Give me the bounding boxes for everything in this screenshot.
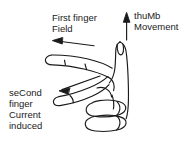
label-thumb-line2: Movement (134, 21, 178, 32)
index-finger-top-edge (52, 55, 112, 68)
label-first-finger: First finger Field (52, 12, 97, 34)
middle-finger-crease (70, 96, 73, 103)
field-arrow-head (52, 38, 62, 44)
movement-arrow-head (123, 12, 129, 22)
label-second-finger-line3: Current (9, 109, 42, 120)
label-second-finger-line2: finger (9, 98, 42, 109)
index-finger-knuckle-crease-2 (85, 64, 87, 70)
palm-web-upper (109, 77, 115, 90)
label-second-finger: seCond finger Current induced (9, 87, 42, 131)
index-finger-knuckle-crease-1 (65, 60, 66, 65)
label-thumb: thuMb Movement (134, 10, 178, 32)
index-finger-outline (45, 55, 108, 77)
label-second-finger-line4: induced (9, 120, 42, 131)
folded-fingers-tip-crease-upper (116, 102, 120, 116)
folded-fingers-tip-crease-lower (116, 116, 120, 130)
label-second-finger-line1: seCond (9, 87, 42, 98)
label-first-finger-line2: Field (52, 23, 97, 34)
thumb-nail (117, 44, 123, 55)
label-first-finger-line1: First finger (52, 12, 97, 23)
label-thumb-line1: thuMb (134, 10, 178, 21)
thumb-outline-left (109, 42, 120, 83)
palm-side-edge (112, 95, 114, 109)
current-arrow-shaft (62, 76, 100, 90)
thumb-outline-right (120, 42, 128, 119)
flemings-rule-diagram: First finger Field thuMb Movement seCond… (0, 0, 189, 150)
